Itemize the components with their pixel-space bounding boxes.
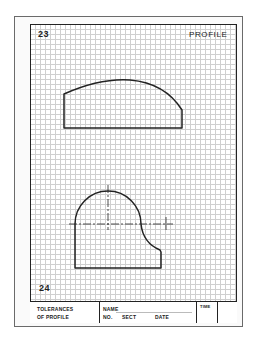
date-label: DATE — [155, 314, 169, 320]
sect-label: SECT — [122, 314, 136, 320]
title-block-description: TOLERANCES OF PROFILE — [30, 302, 99, 323]
of-profile-label: OF PROFILE — [37, 314, 69, 320]
grade-field — [218, 302, 236, 323]
upper-profile-shape — [64, 80, 182, 128]
student-info-field: NAME NO. SECT DATE — [100, 302, 196, 323]
no-label: NO. — [103, 314, 113, 320]
tolerances-label: TOLERANCES — [37, 306, 73, 312]
time-label: TIME — [200, 304, 210, 309]
title-block: TOLERANCES OF PROFILE NAME NO. SECT DATE… — [30, 301, 237, 323]
time-field: TIME — [197, 302, 217, 323]
lower-profile-shape — [75, 191, 161, 268]
problem-number-bottom: 24 — [39, 283, 50, 293]
name-underline — [116, 312, 192, 313]
